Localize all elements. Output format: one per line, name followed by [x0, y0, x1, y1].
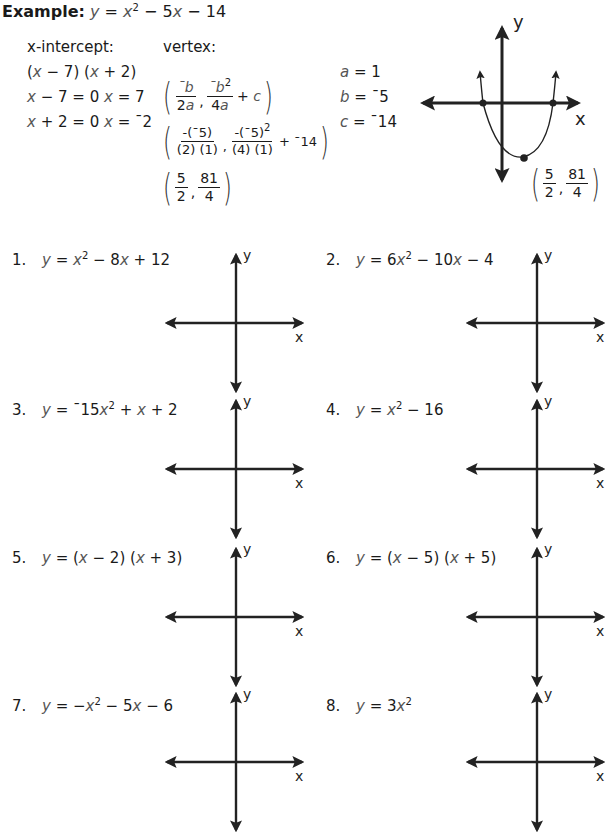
- problem-8: 8.y = 3x2: [326, 697, 412, 715]
- x-axis-label: x: [295, 623, 303, 639]
- x-intercept-point-left: [480, 100, 487, 107]
- y-axis-label: y: [243, 247, 251, 263]
- example-label: Example:: [2, 2, 85, 21]
- problem-equation: y = 3x2: [356, 697, 412, 715]
- y-axis-label: y: [544, 686, 552, 702]
- vertex-x-formula: ˉb 2a: [175, 80, 197, 112]
- problem-7: 7.y = −x2 − 5x − 6: [12, 697, 173, 715]
- problem-5: 5.y = (x − 2) (x + 3): [12, 549, 182, 567]
- y-axis-label: y: [544, 393, 552, 409]
- x-intercept-point-right: [550, 100, 557, 107]
- example-header: Example: y = x2 − 5x − 14: [2, 2, 226, 21]
- problem-number: 8.: [326, 697, 356, 715]
- x-intercept-line-1: x − 7 = 0 x = 7: [27, 88, 145, 106]
- problem-1: 1.y = x2 − 8x + 12: [12, 251, 170, 269]
- problem-number: 5.: [12, 549, 42, 567]
- problem-number: 1.: [12, 251, 42, 269]
- problem-number: 4.: [326, 401, 356, 419]
- coefficient-b: b = ˉ5: [340, 88, 389, 106]
- coefficient-a: a = 1: [340, 63, 381, 81]
- y-axis-label: y: [544, 541, 552, 557]
- problem-number: 2.: [326, 251, 356, 269]
- vertex-formula: ( ˉb 2a , ˉb2 4a + c ): [160, 77, 276, 115]
- vertex-y-formula: ˉb2 4a: [207, 80, 233, 112]
- problem-6-axes[interactable]: yx: [462, 542, 612, 692]
- x-intercept-line-2: x + 2 = 0 x = ˉ2: [27, 113, 152, 131]
- problem-4-axes[interactable]: yx: [462, 394, 612, 544]
- vertex-heading: vertex:: [163, 38, 216, 56]
- problem-2-axes[interactable]: yx: [462, 248, 612, 398]
- x-intercept-factored: (x − 7) (x + 2): [27, 63, 136, 81]
- problem-equation: y = x2 − 8x + 12: [42, 251, 170, 269]
- problem-7-axes[interactable]: yx: [161, 687, 311, 836]
- example-equation: y = x2 − 5x − 14: [90, 2, 226, 21]
- problem-number: 7.: [12, 697, 42, 715]
- example-parabola: [480, 72, 556, 157]
- vertex-substituted: ( -(ˉ5) (2) (1) , -(ˉ5)2 (4) (1) + ˉ14 ): [160, 122, 332, 160]
- problem-equation: y = x2 − 16: [356, 401, 443, 419]
- vertex-result: ( 5 2 , 81 4 ): [160, 168, 235, 206]
- x-axis-label: x: [596, 329, 604, 345]
- problem-number: 3.: [12, 401, 42, 419]
- x-axis-label: x: [596, 768, 604, 784]
- problem-number: 6.: [326, 549, 356, 567]
- y-axis-label: y: [243, 393, 251, 409]
- example-y-label: y: [513, 11, 524, 32]
- x-axis-label: x: [295, 329, 303, 345]
- x-axis-label: x: [596, 475, 604, 491]
- example-x-label: x: [575, 108, 586, 129]
- problem-5-axes[interactable]: yx: [161, 542, 311, 692]
- x-axis-label: x: [596, 623, 604, 639]
- problem-equation: y = −x2 − 5x − 6: [42, 697, 173, 715]
- example-graph-vertex-label: ( 5 2 , 81 4 ): [528, 164, 603, 202]
- problem-8-axes[interactable]: yx: [462, 687, 612, 836]
- y-axis-label: y: [243, 686, 251, 702]
- coefficient-c: c = ˉ14: [340, 113, 397, 131]
- problem-3: 3.y = ˉ15x2 + x + 2: [12, 401, 178, 419]
- vertex-point: [520, 154, 528, 162]
- x-axis-label: x: [295, 768, 303, 784]
- y-axis-label: y: [243, 541, 251, 557]
- problem-1-axes[interactable]: yx: [161, 248, 311, 398]
- y-axis-label: y: [544, 247, 552, 263]
- problem-3-axes[interactable]: yx: [161, 394, 311, 544]
- x-intercept-heading: x-intercept:: [27, 38, 114, 56]
- problem-4: 4.y = x2 − 16: [326, 401, 443, 419]
- x-axis-label: x: [295, 475, 303, 491]
- problem-equation: y = ˉ15x2 + x + 2: [42, 401, 178, 419]
